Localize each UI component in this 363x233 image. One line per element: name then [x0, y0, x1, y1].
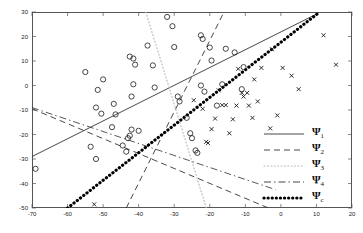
legend-label-Psi2: Ψ2 — [312, 141, 324, 156]
marker-cross — [92, 202, 96, 206]
x-tick-label: -30 — [170, 211, 179, 217]
y-tick-label: -40 — [8, 181, 28, 187]
marker-cross — [334, 63, 338, 67]
legend-subscript: 2 — [321, 148, 325, 156]
marker-cross — [201, 107, 205, 111]
figure-scatter-plot: -70-60-50-40-30-20-1001020 -50-40-30-20-… — [0, 0, 363, 233]
marker-circle — [93, 105, 98, 110]
marker-cross — [281, 66, 285, 70]
x-tick-label: -10 — [241, 211, 250, 217]
y-tick-label: 0 — [8, 83, 28, 89]
marker-cross — [231, 117, 235, 121]
legend-symbol-Psi2 — [262, 142, 306, 158]
legend-symbol-Psi4 — [262, 174, 306, 190]
marker-circle — [133, 62, 138, 67]
marker-cross — [275, 113, 279, 117]
line-Psi2b — [126, 12, 224, 208]
x-tick-label: 0 — [279, 211, 282, 217]
legend-symbol-Psi3 — [262, 158, 306, 174]
marker-circle — [241, 65, 246, 70]
marker-circle — [129, 94, 134, 99]
marker-circle — [83, 69, 88, 74]
marker-circle — [124, 149, 129, 154]
marker-circle — [172, 44, 177, 49]
y-tick-label: 30 — [8, 9, 28, 15]
marker-cross — [247, 104, 251, 108]
legend-label-PsiC: Ψˆc — [312, 189, 324, 204]
marker-cross — [250, 116, 254, 120]
legend-subscript: 4 — [321, 180, 325, 188]
marker-cross — [256, 99, 260, 103]
marker-circle — [109, 125, 114, 130]
marker-circle — [214, 103, 219, 108]
marker-cross — [242, 95, 246, 99]
marker-cross — [297, 87, 301, 91]
legend-subscript: 3 — [321, 164, 325, 172]
marker-circle — [136, 128, 141, 133]
y-tick-label: -30 — [8, 156, 28, 162]
x-tick-label: -40 — [134, 211, 143, 217]
marker-cross — [245, 91, 249, 95]
marker-circle — [223, 46, 228, 51]
marker-circle — [111, 101, 116, 106]
x-tick-label: -70 — [28, 211, 37, 217]
marker-circle — [131, 82, 136, 87]
line-Psi2a — [32, 109, 268, 208]
marker-circle — [95, 87, 100, 92]
y-tick-label: 10 — [8, 58, 28, 64]
legend-item-Psi2[interactable]: Ψ2 — [262, 142, 350, 158]
marker-circle — [209, 58, 214, 63]
marker-cross — [290, 74, 294, 78]
marker-circle — [101, 77, 106, 82]
legend-label-Psi4: Ψ4 — [312, 173, 324, 188]
marker-circle — [177, 99, 182, 104]
legend-subscript: 1 — [321, 132, 325, 140]
marker-cross — [220, 103, 224, 107]
legend-item-Psi3[interactable]: Ψ3 — [262, 158, 350, 174]
x-tick-label: -50 — [99, 211, 108, 217]
y-tick-label: -50 — [8, 205, 28, 211]
marker-circle — [188, 131, 193, 136]
marker-circle — [152, 85, 157, 90]
legend-item-PsiC[interactable]: Ψˆc — [262, 190, 350, 206]
y-tick-label: 20 — [8, 34, 28, 40]
x-tick-label: 20 — [349, 211, 356, 217]
legend-item-Psi4[interactable]: Ψ4 — [262, 174, 350, 190]
marker-cross — [210, 127, 214, 131]
marker-circle — [99, 111, 104, 116]
line-Psi3 — [146, 12, 206, 208]
legend-symbol-Psi1 — [262, 126, 306, 142]
x-tick-label: 10 — [313, 211, 320, 217]
y-tick-label: -10 — [8, 107, 28, 113]
marker-circle — [170, 24, 175, 29]
marker-cross — [227, 131, 231, 135]
marker-circle — [207, 45, 212, 50]
marker-circle — [120, 143, 125, 148]
legend-symbol-PsiC — [262, 190, 306, 206]
marker-circle — [175, 94, 180, 99]
marker-circle — [202, 89, 207, 94]
hat-accent-icon: ˆ — [315, 182, 318, 191]
marker-circle — [145, 43, 150, 48]
marker-circle — [150, 63, 155, 68]
x-tick-label: -20 — [205, 211, 214, 217]
marker-cross — [192, 98, 196, 102]
marker-circle — [33, 166, 38, 171]
legend-item-Psi1[interactable]: Ψ1 — [262, 126, 350, 142]
marker-circle — [198, 83, 203, 88]
legend-subscript: c — [321, 196, 324, 204]
legend: Ψ1Ψ2Ψ3Ψ4Ψˆc — [262, 126, 350, 206]
legend-label-Psi1: Ψ1 — [312, 125, 324, 140]
marker-cross — [322, 33, 326, 37]
line-Psi4 — [32, 108, 276, 190]
marker-cross — [224, 103, 228, 107]
legend-label-Psi3: Ψ3 — [312, 157, 324, 172]
marker-circle — [232, 50, 237, 55]
marker-cross — [206, 141, 210, 145]
marker-cross — [252, 77, 256, 81]
marker-circle — [93, 156, 98, 161]
marker-circle — [129, 127, 134, 132]
marker-circle — [165, 14, 170, 19]
marker-cross — [234, 104, 238, 108]
y-tick-label: -20 — [8, 132, 28, 138]
